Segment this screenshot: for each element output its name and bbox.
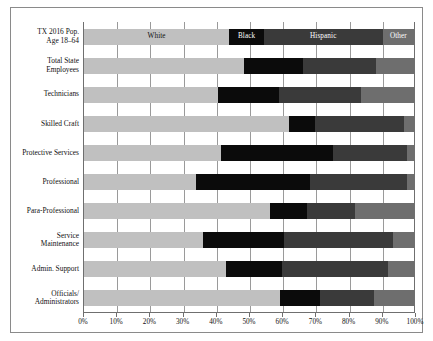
bar-segment-other — [376, 58, 414, 74]
bar-segment-black — [270, 203, 306, 219]
x-tick-label-20: 20% — [143, 318, 156, 327]
bar-segment-black — [244, 58, 303, 74]
bar-row — [84, 232, 414, 248]
x-tick-10 — [116, 313, 117, 317]
bar-segment-hispanic — [279, 87, 362, 103]
bar-segment-white — [84, 87, 218, 103]
bar-segment-hispanic — [307, 203, 355, 219]
y-axis-label: Technicians — [21, 90, 79, 99]
bar-row — [84, 87, 414, 103]
bar-segment-white — [84, 145, 221, 161]
stacked-bar — [84, 203, 414, 219]
legend-label-black: Black — [238, 33, 255, 40]
bar-segment-white: White — [84, 29, 229, 45]
bar-row — [84, 116, 414, 132]
stacked-bar — [84, 232, 414, 248]
x-tick-0 — [83, 313, 84, 317]
bar-segment-white — [84, 174, 196, 190]
bar-segment-white — [84, 116, 289, 132]
bar-segment-other — [404, 116, 414, 132]
x-tick-80 — [349, 313, 350, 317]
bar-segment-hispanic — [333, 145, 407, 161]
bar-segment-hispanic — [320, 290, 374, 306]
bar-segment-black — [221, 145, 333, 161]
stacked-bar — [84, 174, 414, 190]
y-axis-label: Para-Professional — [21, 207, 79, 216]
bar-segment-hispanic — [282, 261, 388, 277]
x-tick-label-40: 40% — [209, 318, 222, 327]
x-tick-40 — [216, 313, 217, 317]
x-tick-30 — [183, 313, 184, 317]
x-tick-label-60: 60% — [276, 318, 289, 327]
bar-segment-hispanic — [315, 116, 404, 132]
y-axis-label: Professional — [21, 178, 79, 187]
bar-segment-black — [289, 116, 315, 132]
bar-segment-black — [196, 174, 310, 190]
stacked-bar: WhiteBlackHispanicOther — [84, 29, 414, 45]
bar-segment-hispanic — [310, 174, 407, 190]
bar-segment-white — [84, 290, 280, 306]
bar-segment-hispanic — [284, 232, 393, 248]
bar-segment-other — [374, 290, 414, 306]
bar-row — [84, 203, 414, 219]
x-tick-label-10: 10% — [110, 318, 123, 327]
x-tick-label-70: 70% — [309, 318, 322, 327]
y-axis-label: Total State Employees — [21, 57, 79, 74]
bar-rows: WhiteBlackHispanicOther — [84, 22, 414, 312]
x-tick-70 — [315, 313, 316, 317]
plot-area: WhiteBlackHispanicOther — [83, 22, 415, 313]
bar-segment-black — [218, 87, 279, 103]
legend-label-white: White — [148, 33, 166, 40]
y-axis-category-labels: TX 2016 Pop. Age 18–64Total State Employ… — [21, 22, 79, 313]
bar-segment-other — [407, 145, 414, 161]
legend-label-other: Other — [390, 33, 407, 40]
bar-segment-black — [203, 232, 284, 248]
x-tick-50 — [249, 313, 250, 317]
bar-segment-other — [388, 261, 414, 277]
bar-row: WhiteBlackHispanicOther — [84, 29, 414, 45]
y-axis-label: Protective Services — [21, 149, 79, 158]
stacked-bar — [84, 58, 414, 74]
bar-segment-white — [84, 203, 270, 219]
stacked-bar — [84, 290, 414, 306]
stacked-bar — [84, 145, 414, 161]
x-tick-label-80: 80% — [342, 318, 355, 327]
legend-label-hispanic: Hispanic — [310, 33, 336, 40]
figure-frame: WhiteBlackHispanicOther TX 2016 Pop. Age… — [10, 7, 423, 333]
y-axis-label: Service Maintenance — [21, 232, 79, 249]
bar-segment-white — [84, 261, 226, 277]
x-tick-label-50: 50% — [242, 318, 255, 327]
bar-row — [84, 290, 414, 306]
bar-row — [84, 261, 414, 277]
bar-segment-hispanic: Hispanic — [264, 29, 383, 45]
stacked-bar-chart: WhiteBlackHispanicOther TX 2016 Pop. Age… — [0, 0, 433, 341]
bar-segment-other: Other — [383, 29, 414, 45]
y-axis-label: Skilled Craft — [21, 120, 79, 129]
x-tick-100 — [415, 313, 416, 317]
bar-row — [84, 174, 414, 190]
x-tick-20 — [149, 313, 150, 317]
bar-row — [84, 58, 414, 74]
bar-segment-other — [355, 203, 414, 219]
stacked-bar — [84, 87, 414, 103]
bar-segment-black — [280, 290, 320, 306]
x-tick-60 — [282, 313, 283, 317]
x-tick-label-30: 30% — [176, 318, 189, 327]
y-axis-label: Officials/ Administrators — [21, 290, 79, 307]
bar-row — [84, 145, 414, 161]
x-tick-90 — [382, 313, 383, 317]
bar-segment-white — [84, 232, 203, 248]
x-tick-label-0: 0% — [78, 318, 88, 327]
bar-segment-other — [361, 87, 414, 103]
bar-segment-other — [393, 232, 414, 248]
stacked-bar — [84, 116, 414, 132]
y-axis-label: Admin. Support — [21, 265, 79, 274]
bar-segment-hispanic — [303, 58, 376, 74]
stacked-bar — [84, 261, 414, 277]
x-axis: 0%10%20%30%40%50%60%70%80%90%100% — [83, 313, 415, 335]
bar-segment-black — [226, 261, 282, 277]
bar-segment-other — [407, 174, 414, 190]
x-tick-label-100: 100% — [407, 318, 424, 327]
x-tick-label-90: 90% — [375, 318, 388, 327]
bar-segment-black: Black — [229, 29, 264, 45]
